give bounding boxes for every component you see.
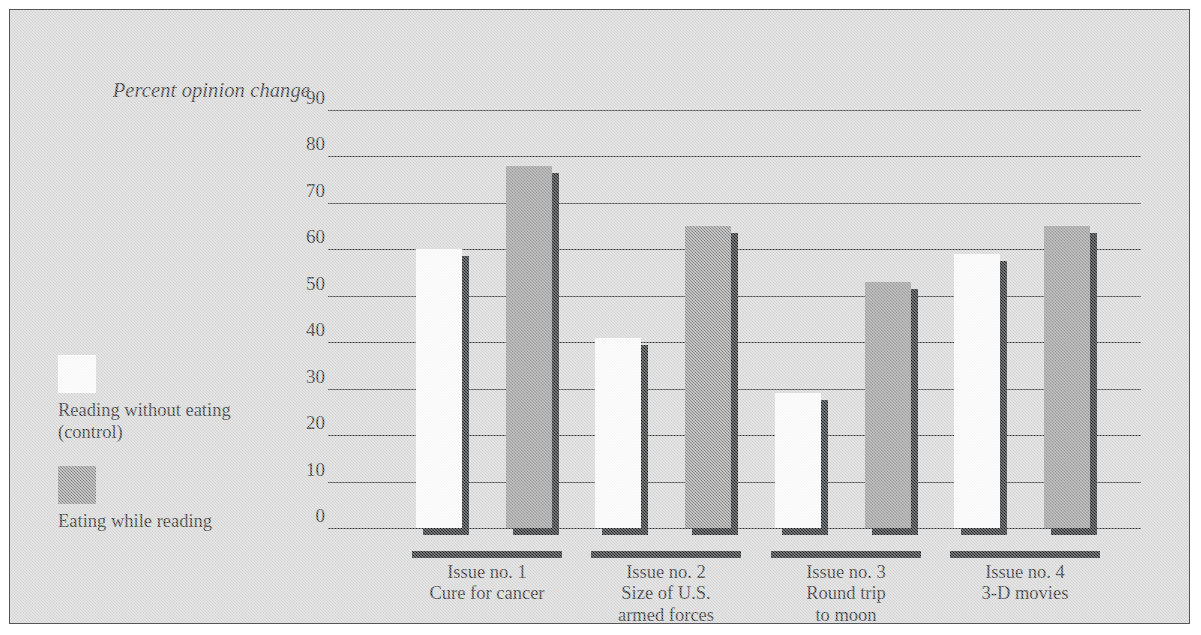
group-label-4: Issue no. 43-D movies (910, 562, 1140, 605)
bar-fill (865, 282, 911, 528)
gray-swatch (58, 466, 96, 504)
bar-group3-eating (865, 282, 911, 528)
bar-fill (1044, 226, 1090, 528)
y-tick-label-90: 90 (285, 88, 325, 107)
y-tick-label-60: 60 (285, 227, 325, 246)
group-label-line: 3-D movies (910, 583, 1140, 604)
y-tick-label-80: 80 (285, 134, 325, 153)
group-rule-1 (412, 551, 562, 558)
group-rule-2 (591, 551, 741, 558)
bar-group2-control (595, 338, 641, 528)
gridline-70 (328, 203, 1141, 204)
group-label-line: to moon (731, 605, 961, 624)
bar-group1-eating (506, 166, 552, 528)
bar-fill (595, 338, 641, 528)
bar-group1-control (416, 249, 462, 528)
legend-entry-1: Reading without eating (control) (58, 355, 328, 444)
group-rule-3 (771, 551, 921, 558)
group-rule-4 (950, 551, 1100, 558)
legend-label-2: Eating while reading (58, 511, 328, 533)
bar-fill (954, 254, 1000, 528)
chart-frame: Percent opinion change 90807060504030201… (9, 9, 1190, 624)
bar-fill (506, 166, 552, 528)
bar-group3-control (775, 393, 821, 528)
y-tick-label-40: 40 (285, 320, 325, 339)
gridline-80 (328, 156, 1141, 157)
gridline-90 (328, 110, 1141, 111)
bar-fill (416, 249, 462, 528)
y-tick-label-70: 70 (285, 181, 325, 200)
figure-root: Percent opinion change 90807060504030201… (0, 0, 1201, 635)
group-label-line: Issue no. 4 (910, 562, 1140, 583)
bar-group4-control (954, 254, 1000, 528)
bar-group4-eating (1044, 226, 1090, 528)
bar-group2-eating (685, 226, 731, 528)
white-swatch (58, 355, 96, 393)
y-tick-label-50: 50 (285, 274, 325, 293)
legend-label-1: Reading without eating (control) (58, 400, 328, 444)
legend-entry-2: Eating while reading (58, 466, 328, 533)
bar-fill (775, 393, 821, 528)
chart-legend: Reading without eating (control)Eating w… (58, 355, 328, 532)
bar-fill (685, 226, 731, 528)
